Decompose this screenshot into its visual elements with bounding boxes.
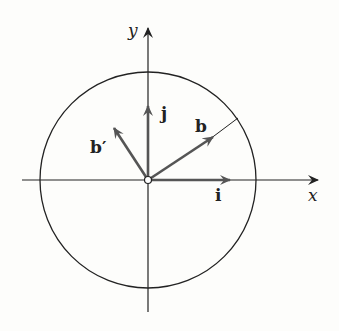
unit-circle-figure: y x i j b b′ xyxy=(0,0,339,331)
vector-i-label: i xyxy=(215,185,221,205)
vector-b-prime-arrow xyxy=(114,128,148,180)
vector-j-label: j xyxy=(161,103,167,123)
x-axis-label: x xyxy=(308,185,318,205)
origin-marker xyxy=(145,177,152,184)
vector-b-prime-label: b′ xyxy=(90,137,106,157)
y-axis-label: y xyxy=(128,20,138,40)
diagram-canvas xyxy=(0,0,339,331)
b-extension-line xyxy=(210,118,238,139)
vector-b-arrow xyxy=(148,137,213,180)
vector-b-label: b xyxy=(195,116,207,136)
